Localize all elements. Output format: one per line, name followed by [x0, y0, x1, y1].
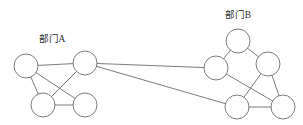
graph-canvas: 部门A 部门B: [0, 0, 303, 125]
cluster-b-node-group: [204, 29, 295, 119]
cluster-a-node-group: [14, 51, 97, 117]
cluster-label-b: 部门B: [225, 9, 251, 20]
network-diagram-figure: 部门A 部门B: [0, 0, 303, 125]
node-b1[interactable]: [226, 29, 250, 53]
node-b3[interactable]: [256, 52, 280, 76]
cluster-label-a: 部门A: [39, 33, 66, 44]
bridge-edge-a2-b2: [85, 63, 216, 68]
node-a1[interactable]: [14, 54, 38, 78]
node-b4[interactable]: [225, 95, 249, 119]
node-a4[interactable]: [73, 93, 97, 117]
node-b2[interactable]: [204, 56, 228, 80]
node-a2[interactable]: [73, 51, 97, 75]
node-b5[interactable]: [271, 95, 295, 119]
node-a3[interactable]: [31, 93, 55, 117]
